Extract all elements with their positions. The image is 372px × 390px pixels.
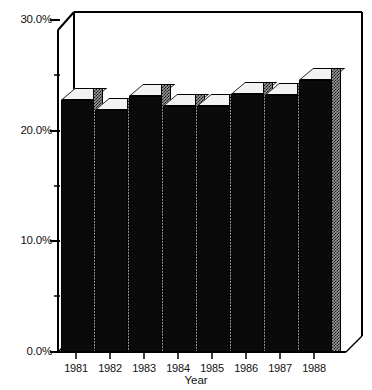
ytick-label-0: 0.0%	[0, 345, 52, 357]
bar-front-face	[265, 95, 298, 352]
bar-1988	[299, 68, 345, 352]
bar-side-face	[331, 68, 341, 352]
bar-front-face	[95, 110, 128, 352]
ytick-label-30: 30.0%	[0, 13, 52, 25]
ytick-label-10: 10.0%	[0, 234, 52, 246]
bar-front-face	[231, 94, 264, 352]
bar-front-face	[299, 80, 332, 352]
xtick-label-1988: 1988	[294, 362, 334, 374]
bar-front-face	[163, 106, 196, 352]
bar-chart: 30.0% 20.0% 10.0% 0.0%	[0, 0, 372, 390]
bar-front-face	[61, 100, 94, 352]
bar-front-face	[197, 106, 230, 352]
ytick-label-20: 20.0%	[0, 124, 52, 136]
x-axis-title: Year	[166, 374, 226, 386]
bar-front-face	[129, 96, 162, 352]
